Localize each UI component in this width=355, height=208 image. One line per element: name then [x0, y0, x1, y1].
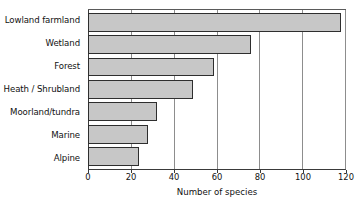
category-label: Moorland/tundra	[0, 101, 84, 124]
bar	[88, 125, 148, 144]
bar-row	[88, 56, 345, 78]
gridline	[345, 10, 346, 169]
bar	[88, 35, 251, 54]
category-label: Wetland	[0, 32, 84, 55]
bar	[88, 58, 214, 77]
category-axis: Lowland farmland Wetland Forest Heath / …	[0, 9, 84, 170]
bar	[88, 13, 341, 32]
bar	[88, 80, 193, 99]
bar	[88, 147, 139, 166]
tick-label: 60	[212, 173, 223, 181]
category-label: Heath / Shrubland	[0, 78, 84, 101]
value-axis-tick-labels: 020406080100120	[88, 173, 346, 185]
category-label: Alpine	[0, 147, 84, 170]
bar-row	[88, 33, 345, 55]
bar-row	[88, 123, 345, 145]
x-axis-title: Number of species	[88, 188, 346, 197]
plot-area	[88, 9, 346, 170]
bar	[88, 102, 157, 121]
bar-row	[88, 11, 345, 33]
category-label: Forest	[0, 55, 84, 78]
tick-label: 20	[126, 173, 137, 181]
category-label: Marine	[0, 124, 84, 147]
tick-label: 0	[85, 173, 90, 181]
tick-label: 40	[169, 173, 180, 181]
bar-row	[88, 101, 345, 123]
bars-layer	[88, 10, 345, 169]
bar-row	[88, 78, 345, 100]
tick-label: 100	[295, 173, 311, 181]
horizontal-bar-chart: Lowland farmland Wetland Forest Heath / …	[0, 0, 355, 208]
tick-label: 80	[255, 173, 266, 181]
bar-row	[88, 146, 345, 168]
tick-label: 120	[338, 173, 354, 181]
category-label: Lowland farmland	[0, 9, 84, 32]
